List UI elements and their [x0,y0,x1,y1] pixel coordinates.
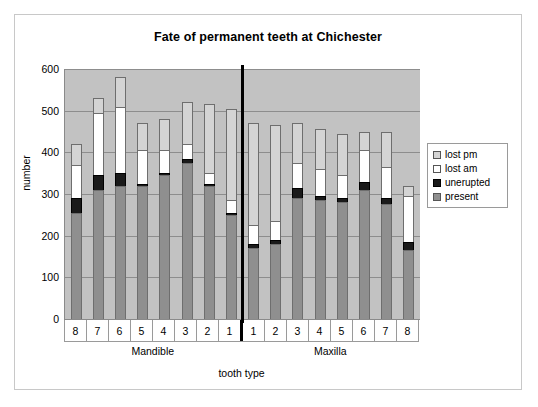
bar-slot [154,69,176,319]
x-tick-label: 3 [287,320,309,341]
stacked-bar[interactable] [93,98,104,319]
x-axis-tick-row: 8765432112345678 [64,320,419,342]
x-tick-label: 7 [87,320,109,341]
y-tick-label: 600 [41,63,59,75]
bar-segment-lost-pm [337,134,348,176]
bar-segment-lost-am [359,150,370,181]
stacked-bar[interactable] [381,132,392,319]
bar-segment-lost-am [204,173,215,183]
stacked-bar[interactable] [115,77,126,319]
plot-area [64,69,420,320]
x-axis-group-row: MandibleMaxilla [64,345,419,361]
stacked-bar[interactable] [204,104,215,319]
legend-item-lostpm[interactable]: lost pm [433,149,503,160]
bar-slot [198,69,220,319]
y-tick-label: 100 [41,271,59,283]
bar-slot [65,69,87,319]
bar-segment-unerupted [115,173,126,186]
x-tick-label: 8 [64,320,87,341]
bar-segment-present [204,186,215,319]
stacked-bar[interactable] [248,123,259,319]
bar-segment-lost-pm [93,98,104,113]
bar-slot [132,69,154,319]
y-tick-label: 0 [53,313,59,325]
stacked-bar[interactable] [182,102,193,319]
bar-slot [87,69,109,319]
bar-segment-lost-am [182,144,193,159]
stacked-bar[interactable] [137,123,148,319]
bar-segment-lost-pm [115,77,126,106]
stacked-bar[interactable] [315,129,326,319]
bar-segment-unerupted [292,188,303,198]
bar-slot [331,69,353,319]
y-tick-label: 200 [41,230,59,242]
bar-segment-lost-pm [71,144,82,165]
x-tick-label: 5 [131,320,153,341]
bar-slot [220,69,242,319]
x-tick-label: 6 [109,320,131,341]
legend-swatch-icon [433,151,441,159]
bar-segment-lost-am [93,113,104,176]
stacked-bar[interactable] [337,134,348,319]
stacked-bar[interactable] [270,125,281,319]
legend-swatch-icon [433,179,441,187]
legend-item-lostam[interactable]: lost am [433,163,503,174]
bar-segment-present [248,248,259,319]
bar-segment-present [226,215,237,319]
bar-segment-lost-pm [226,109,237,201]
bar-segment-unerupted [403,242,414,250]
stacked-bar[interactable] [359,132,370,319]
bar-segment-lost-pm [182,102,193,144]
bar-segment-lost-pm [403,186,414,196]
legend-item-label: unerupted [445,177,490,188]
bar-slot [176,69,198,319]
bar-segment-lost-am [71,165,82,198]
legend-item-label: lost pm [445,149,477,160]
bar-segment-present [381,204,392,319]
stacked-bar[interactable] [71,144,82,319]
bar-slot [109,69,131,319]
bar-segment-present [137,186,148,319]
bar-segment-present [337,202,348,319]
bar-slot [287,69,309,319]
legend-item-present[interactable]: present [433,191,503,202]
bar-segment-present [93,190,104,319]
legend-swatch-icon [433,165,441,173]
bar-segment-lost-am [403,196,414,242]
bar-slot [398,69,420,319]
bar-segment-lost-pm [248,123,259,225]
bar-segment-lost-am [159,150,170,173]
chart-legend: lost pmlost amuneruptedpresent [427,143,508,208]
bar-segment-lost-am [248,225,259,244]
bar-segment-lost-am [381,167,392,198]
legend-item-unerupted[interactable]: unerupted [433,177,503,188]
legend-item-label: lost am [445,163,477,174]
x-tick-label: 2 [265,320,287,341]
stacked-bar[interactable] [403,186,414,319]
legend-swatch-icon [433,193,441,201]
y-axis-ticks: 0100200300400500600 [25,69,59,319]
stacked-bar[interactable] [159,119,170,319]
bar-segment-lost-pm [204,104,215,173]
bar-segment-unerupted [71,198,82,213]
x-tick-label: 2 [197,320,219,341]
legend-item-label: present [445,191,478,202]
bar-segment-present [71,213,82,319]
stacked-bar[interactable] [226,109,237,319]
bar-segment-unerupted [359,182,370,190]
x-tick-label: 6 [353,320,375,341]
group-divider [241,65,244,323]
x-tick-label: 5 [331,320,353,341]
x-tick-label: 1 [219,320,243,341]
bar-segment-present [359,190,370,319]
bar-segment-lost-am [337,175,348,198]
y-tick-label: 400 [41,146,59,158]
bar-segment-present [403,250,414,319]
bar-segment-lost-am [270,221,281,240]
bar-segment-lost-pm [381,132,392,167]
bar-slot [265,69,287,319]
x-tick-label: 3 [175,320,197,341]
x-tick-label: 4 [309,320,331,341]
stacked-bar[interactable] [292,123,303,319]
bar-segment-lost-pm [292,123,303,163]
